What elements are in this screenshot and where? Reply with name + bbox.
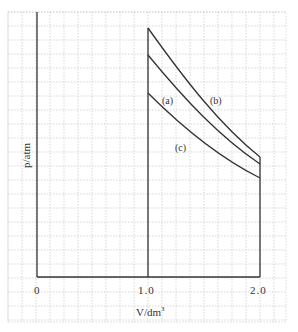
curve-label-a: (a) xyxy=(162,95,173,106)
axes xyxy=(37,12,260,277)
x-axis-label: V/dm3 xyxy=(136,305,165,318)
x-tick-0: 0 xyxy=(34,284,41,296)
pv-chart xyxy=(0,0,298,332)
x-tick-1: 1.0 xyxy=(138,284,155,296)
x-tick-2: 2.0 xyxy=(250,284,267,296)
curve-label-c: (c) xyxy=(175,142,186,153)
grid xyxy=(8,12,286,322)
x-axis-label-text: V/dm xyxy=(136,306,161,318)
curve-b xyxy=(148,28,260,157)
y-axis-label: p/atm xyxy=(20,143,32,168)
curve-label-b: (b) xyxy=(210,95,222,106)
x-axis-label-sup: 3 xyxy=(161,305,165,313)
